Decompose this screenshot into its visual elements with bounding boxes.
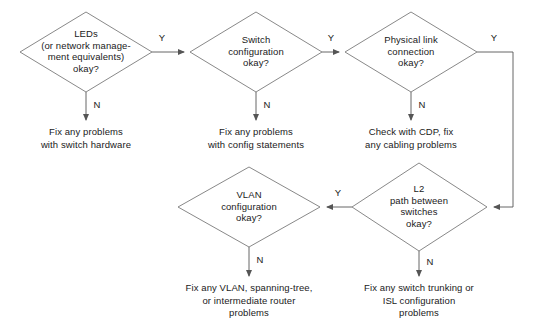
decision-label-switch-config: Switch configuration okay? (196, 34, 316, 69)
edge-label-switch-config-yes: Y (324, 33, 338, 43)
decision-label-physical-link: Physical link connection okay? (351, 34, 471, 69)
edge-label-l2-path-no: N (423, 257, 437, 267)
action-label-check-cdp-cabling: Check with CDP, fix any cabling problems (331, 126, 491, 151)
action-label-fix-vlan-spanning-tree: Fix any VLAN, spanning-tree, or intermed… (159, 282, 339, 320)
decision-label-l2-path: L2 path between switches okay? (364, 183, 474, 229)
edge-label-physical-link-yes: Y (487, 33, 501, 43)
edge-label-leds-no: N (90, 100, 104, 110)
decision-label-leds: LEDs (or network manage- ment equivalent… (6, 28, 166, 74)
edge-label-vlan-config-no: N (253, 255, 267, 265)
edge-label-physical-link-no: N (415, 100, 429, 110)
action-label-fix-config-statements: Fix any problems with config statements (176, 126, 336, 151)
action-label-fix-trunking-isl: Fix any switch trunking or ISL configura… (339, 282, 499, 320)
edge-label-l2-path-yes: Y (331, 188, 345, 198)
flowchart-canvas: LEDs (or network manage- ment equivalent… (0, 0, 536, 330)
action-label-fix-switch-hardware: Fix any problems with switch hardware (6, 126, 166, 151)
edge-label-leds-yes: Y (155, 33, 169, 43)
edge-label-switch-config-no: N (260, 100, 274, 110)
decision-label-vlan-config: VLAN configuration okay? (189, 189, 309, 224)
